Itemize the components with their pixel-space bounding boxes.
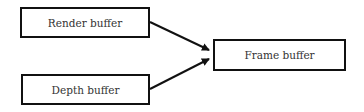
- arrow-render-to-frame: [150, 22, 209, 50]
- depth-buffer-label: Depth buffer: [52, 84, 120, 96]
- render-buffer-label: Render buffer: [48, 17, 122, 29]
- frame-buffer-label: Frame buffer: [244, 49, 314, 61]
- arrow-depth-to-frame: [150, 59, 209, 89]
- frame-buffer-node: Frame buffer: [213, 39, 346, 71]
- render-buffer-node: Render buffer: [20, 7, 150, 38]
- depth-buffer-node: Depth buffer: [21, 74, 150, 105]
